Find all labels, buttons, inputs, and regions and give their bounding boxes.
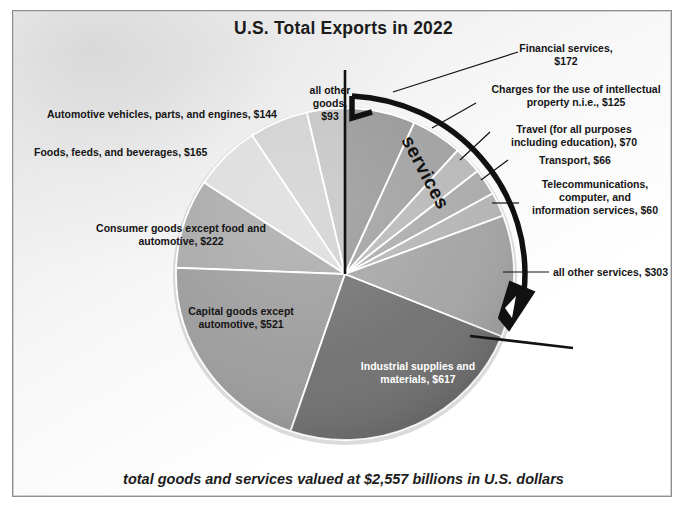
pie-chart (0, 0, 687, 513)
slice-label-capital-goods: Capital goods except automotive, $521 (166, 305, 316, 331)
callout-transport: Transport, $66 (505, 154, 645, 167)
callout-ip-charges: Charges for the use of intellectual prop… (472, 83, 680, 109)
pie-chart-svg (0, 0, 687, 513)
callout-automotive: Automotive vehicles, parts, and engines,… (47, 108, 309, 121)
chart-footnote: total goods and services valued at $2,55… (0, 471, 687, 487)
callout-telecom: Telecommunications, computer, and inform… (512, 178, 678, 216)
slice-label-all-other-goods: all other goods, $93 (306, 84, 354, 122)
screenshot-page: U.S. Total Exports in 2022 (0, 0, 687, 513)
callout-consumer-goods: Consumer goods except food and automotiv… (72, 222, 290, 248)
callout-all-other-services: all other services, $303 (553, 266, 683, 279)
callout-financial-services: Financial services, $172 (506, 42, 626, 68)
callout-foods: Foods, feeds, and beverages, $165 (34, 146, 264, 159)
callout-travel: Travel (for all purposes including educa… (486, 123, 662, 149)
slice-label-industrial: Industrial supplies and materials, $617 (340, 360, 496, 386)
leader-line-ip-charges (432, 103, 476, 128)
